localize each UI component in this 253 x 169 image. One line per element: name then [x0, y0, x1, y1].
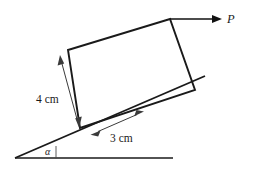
height-dimension-lower-arrowhead-icon	[75, 116, 82, 128]
force-arrowhead-icon	[212, 15, 222, 23]
incline-surface-line	[15, 76, 205, 158]
incline-angle-label: α	[45, 146, 51, 157]
base-dimension-line	[98, 115, 137, 132]
height-dimension-upper-arrowhead-icon	[58, 55, 65, 65]
force-label: P	[226, 12, 235, 26]
height-dimension-label: 4 cm	[36, 93, 59, 105]
block-on-incline-figure: P 4 cm 3 cm α	[0, 0, 253, 169]
block-rectangle	[68, 19, 195, 128]
base-dimension-left-arrowhead-icon	[91, 130, 101, 136]
base-dimension-right-arrowhead-icon	[134, 110, 144, 116]
base-dimension-label: 3 cm	[110, 132, 133, 144]
diagram-canvas: P 4 cm 3 cm α	[0, 0, 253, 169]
